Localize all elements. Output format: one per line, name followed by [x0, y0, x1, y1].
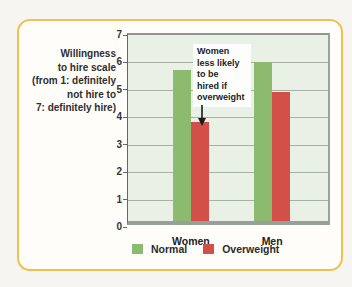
gridline-3: [128, 145, 328, 146]
legend-swatch-normal: [132, 244, 143, 254]
annotation-line: to be: [197, 69, 248, 81]
ytick-label-0: 0: [100, 221, 122, 232]
annotation-line: less likely: [197, 58, 248, 70]
legend-label-overweight: Overweight: [222, 243, 279, 255]
annotation-callout: Women less likely to be hired if overwei…: [193, 44, 251, 107]
figure: Willingness to hire scale (from 1: defin…: [0, 0, 352, 287]
legend: Normal Overweight: [132, 243, 279, 255]
legend-item-overweight: Overweight: [203, 243, 279, 255]
ytick-mark-2: [123, 172, 127, 173]
legend-item-normal: Normal: [132, 243, 187, 255]
annotation-line: Women: [197, 46, 248, 58]
ytick-mark-5: [123, 89, 127, 90]
ytick-label-1: 1: [100, 194, 122, 205]
arrow-down-icon: [196, 105, 208, 127]
annotation-line: overweight: [197, 92, 248, 104]
ytick-label-3: 3: [100, 139, 122, 150]
annotation-line: hired if: [197, 81, 248, 93]
bar-women-normal: [173, 70, 191, 221]
ytick-label-5: 5: [100, 84, 122, 95]
legend-label-normal: Normal: [151, 243, 187, 255]
gridline-4: [128, 117, 328, 118]
ytick-mark-4: [123, 117, 127, 118]
ytick-mark-1: [123, 199, 127, 200]
ytick-mark-7: [123, 35, 127, 36]
ytick-label-7: 7: [100, 29, 122, 40]
ytick-mark-0: [123, 227, 127, 228]
bar-men-normal: [254, 62, 272, 221]
ytick-label-4: 4: [100, 111, 122, 122]
gridline-1: [128, 200, 328, 201]
ytick-label-2: 2: [100, 166, 122, 177]
ytick-mark-6: [123, 62, 127, 63]
ytick-mark-3: [123, 144, 127, 145]
gridline-2: [128, 172, 328, 173]
bar-women-overweight: [191, 122, 209, 221]
legend-swatch-overweight: [203, 244, 214, 254]
bar-men-overweight: [272, 92, 290, 221]
ytick-label-6: 6: [100, 56, 122, 67]
